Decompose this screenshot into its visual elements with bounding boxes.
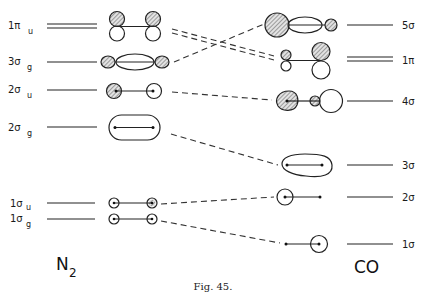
- svg-text:g: g: [27, 63, 32, 72]
- correlation-2sigma-u-to-4sigma: [172, 92, 272, 100]
- correlation-1sigma-u-to-2sigma: [161, 197, 274, 204]
- n2-level-1sigma-u: 1σ u: [10, 198, 95, 212]
- n2-orbital-1pi-u: [110, 12, 161, 42]
- svg-text:2σ: 2σ: [8, 122, 21, 133]
- svg-text:4σ: 4σ: [402, 96, 415, 107]
- co-level-3sigma: 3σ: [347, 160, 415, 171]
- co-level-4sigma: 4σ: [347, 96, 415, 107]
- co-orbital-3sigma: [282, 154, 332, 177]
- svg-text:u: u: [27, 91, 32, 100]
- co-level-5sigma: 5σ: [347, 20, 415, 31]
- n2-orbital-1sigma-u: [109, 198, 157, 208]
- co-level-2sigma: 2σ: [347, 192, 415, 203]
- co-orbital-5sigma: [265, 13, 337, 37]
- n2-level-2sigma-g: 2σ g: [8, 122, 97, 138]
- correlation-1pi-u-to-1pi: [172, 29, 274, 60]
- svg-text:g: g: [27, 129, 32, 138]
- n2-molecule-label: N 2: [56, 254, 77, 280]
- n2-orbital-2sigma-g: [109, 115, 160, 140]
- svg-text:1σ: 1σ: [10, 213, 23, 224]
- svg-text:g: g: [26, 220, 31, 229]
- svg-text:3σ: 3σ: [8, 56, 21, 67]
- svg-text:2σ: 2σ: [402, 192, 415, 203]
- n2-level-1sigma-g: 1σ g: [10, 213, 95, 229]
- svg-text:u: u: [26, 203, 31, 212]
- co-orbital-1pi: [281, 43, 330, 80]
- n2-orbital-2sigma-u: [107, 84, 162, 99]
- correlation-3sigma-g-to-5sigma: [174, 24, 264, 62]
- svg-text:u: u: [28, 27, 33, 36]
- figure-caption: Fig. 45.: [194, 281, 233, 292]
- n2-level-1pi-u: 1π u: [8, 20, 97, 36]
- co-orbital-4sigma: [277, 90, 343, 113]
- svg-text:5σ: 5σ: [402, 20, 415, 31]
- svg-text:3σ: 3σ: [402, 160, 415, 171]
- n2-orbital-1sigma-g: [109, 214, 157, 224]
- co-molecule-label: CO: [354, 257, 379, 277]
- mo-correlation-diagram: 1π u 3σ g 2σ u 2σ g: [0, 0, 427, 307]
- svg-text:2: 2: [69, 266, 77, 280]
- svg-text:CO: CO: [354, 257, 379, 277]
- svg-text:1π: 1π: [8, 20, 20, 31]
- n2-level-3sigma-g: 3σ g: [8, 56, 97, 72]
- n2-orbital-3sigma-g: [101, 54, 169, 70]
- svg-text:1σ: 1σ: [10, 198, 23, 209]
- svg-text:1π: 1π: [402, 55, 414, 66]
- svg-text:N: N: [56, 254, 69, 274]
- co-orbital-1sigma: [285, 236, 328, 253]
- correlation-1sigma-g-to-1sigma: [161, 221, 280, 243]
- n2-level-2sigma-u: 2σ u: [8, 84, 97, 100]
- svg-text:1σ: 1σ: [402, 239, 415, 250]
- co-orbital-2sigma: [277, 189, 322, 205]
- co-level-1sigma: 1σ: [347, 239, 415, 250]
- correlation-2sigma-g-to-3sigma: [171, 134, 278, 165]
- co-level-1pi: 1π: [347, 55, 414, 66]
- svg-text:2σ: 2σ: [8, 84, 21, 95]
